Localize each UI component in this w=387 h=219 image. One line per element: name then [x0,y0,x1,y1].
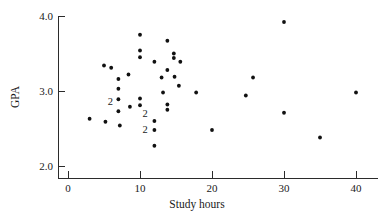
data-point [173,75,177,79]
data-point [153,144,157,148]
data-point [251,76,255,80]
data-point [177,84,181,88]
data-point [318,136,322,140]
data-point [117,109,121,113]
data-point [138,33,142,37]
data-point [138,49,142,53]
overlap-count-labels-layer: 222 [108,96,148,135]
data-point [138,103,142,107]
y-tick-label: 3.0 [39,85,53,97]
y-tick-label: 4.0 [39,10,53,22]
y-axis-title: GPA [9,85,21,108]
data-point [138,55,142,59]
data-point [165,103,169,107]
data-point [282,20,286,24]
data-points-layer [88,20,358,148]
data-point [138,97,142,101]
data-point [282,111,286,115]
data-point [153,128,157,132]
x-tick-label: 30 [279,182,291,194]
scatter-plot-figure: 2.03.04.0 010203040 222 GPA Study hours [0,0,387,219]
x-tick-label: 40 [351,182,363,194]
data-point [102,64,106,68]
data-point [153,60,157,64]
data-point [172,52,176,56]
data-point [153,119,157,123]
data-point [109,66,113,70]
data-point [127,73,131,77]
axes [58,16,378,178]
data-point [194,91,198,95]
data-point [244,94,248,98]
overlap-count-label: 2 [142,124,147,135]
data-point [161,91,165,95]
data-point [117,87,121,91]
y-tick-label: 2.0 [39,160,53,172]
data-point [354,91,358,95]
data-point [118,124,122,128]
plot-canvas: 2.03.04.0 010203040 222 GPA Study hours [0,0,387,219]
overlap-count-label: 2 [108,96,113,107]
data-point [117,97,121,101]
x-tick-label: 0 [65,182,71,194]
data-point [210,128,214,132]
data-point [178,60,182,64]
data-point [165,39,169,43]
x-axis-title: Study hours [169,198,225,211]
data-point [172,56,176,60]
x-tick-label: 10 [135,182,147,194]
data-point [128,105,132,109]
x-tick-label: 20 [207,182,219,194]
data-point [88,117,92,121]
data-point [117,77,121,81]
data-point [104,120,108,124]
data-point [165,68,169,72]
data-point [160,76,164,80]
overlap-count-label: 2 [142,108,147,119]
data-point [165,108,169,112]
y-axis-ticks: 2.03.04.0 [39,10,65,172]
x-axis-ticks: 010203040 [65,171,362,194]
